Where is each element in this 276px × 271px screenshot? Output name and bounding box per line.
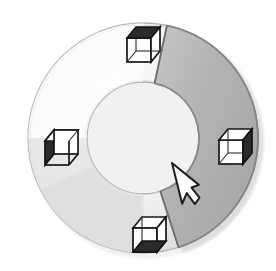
- cube-bottom-geometry: [133, 217, 166, 252]
- cube-right[interactable]: [219, 129, 252, 164]
- cube-right-geometry: [219, 129, 252, 164]
- cube-top[interactable]: [127, 27, 160, 62]
- cube-bottom[interactable]: [133, 217, 166, 252]
- cube-top-geometry: [127, 27, 160, 62]
- diagram-canvas: Circular ring selection diagram with fou…: [0, 0, 276, 271]
- ring-diagram-svg: [0, 0, 276, 271]
